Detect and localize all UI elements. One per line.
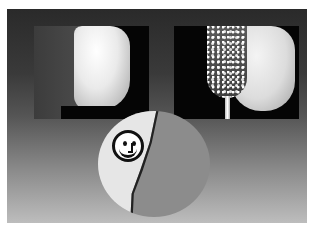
smiley-face-icon bbox=[112, 130, 144, 162]
bur-shank bbox=[225, 96, 230, 119]
circle-diagram bbox=[98, 111, 210, 217]
smile bbox=[119, 143, 137, 158]
diamond-bur bbox=[207, 26, 247, 98]
tooth-photo bbox=[34, 26, 149, 119]
tooth-shape bbox=[74, 26, 130, 110]
tooth-with-bur-photo bbox=[174, 26, 299, 119]
